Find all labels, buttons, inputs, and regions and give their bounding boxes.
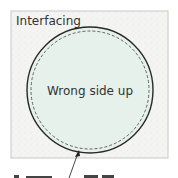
interfacing-diagram: Interfacing Wrong side up [0, 0, 178, 178]
interfacing-label: Interfacing [16, 14, 81, 28]
caption-cropped [14, 175, 114, 178]
circle-label: Wrong side up [47, 84, 133, 98]
